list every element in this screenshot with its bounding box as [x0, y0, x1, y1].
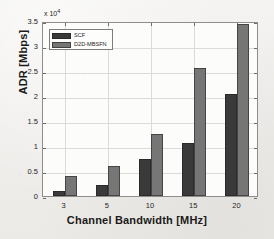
- bar-d2d-mbsfn-10mhz: [151, 134, 163, 196]
- y-tick-label: 0.5: [4, 168, 38, 176]
- y-tick-label: 3: [4, 43, 38, 51]
- bar-d2d-mbsfn-3mhz: [65, 176, 77, 196]
- y-tick-label: 2.5: [4, 68, 38, 76]
- x-axis-title: Channel Bandwidth [MHz]: [0, 214, 274, 226]
- y-tick-label: 3.5: [4, 18, 38, 26]
- legend-swatch-d2d-mbsfn: [52, 42, 71, 48]
- bar-scf-20mhz: [225, 94, 237, 196]
- x-tick-label: 20: [221, 202, 251, 210]
- y-axis-tick-right: [254, 198, 257, 199]
- bar-scf-5mhz: [96, 185, 108, 197]
- x-tick-label: 15: [178, 202, 208, 210]
- legend-label-scf: SCF: [74, 33, 85, 39]
- legend-item-scf: SCF: [52, 32, 110, 40]
- legend-label-d2d-mbsfn: D2D-MBSFN: [74, 42, 107, 48]
- y-tick-label: 1.5: [4, 118, 38, 126]
- figure-canvas: x 104 ADR [Mbps] Channel Bandwidth [MHz]…: [0, 0, 274, 239]
- plot-area: SCF D2D-MBSFN: [42, 22, 258, 197]
- chart-legend: SCF D2D-MBSFN: [49, 29, 113, 50]
- y-tick-label: 0: [4, 193, 38, 201]
- y-axis-multiplier-base: x 10: [44, 10, 57, 17]
- legend-item-d2d-mbsfn: D2D-MBSFN: [52, 41, 110, 49]
- bar-scf-15mhz: [182, 143, 194, 196]
- x-tick-label: 3: [49, 202, 79, 210]
- legend-swatch-scf: [52, 33, 71, 39]
- bar-scf-10mhz: [139, 159, 151, 196]
- y-axis-multiplier: x 104: [44, 9, 60, 17]
- x-tick-label: 5: [92, 202, 122, 210]
- x-tick-label: 10: [135, 202, 165, 210]
- y-tick-label: 1: [4, 143, 38, 151]
- y-axis-tick: [43, 198, 46, 199]
- bar-scf-3mhz: [53, 191, 65, 197]
- y-axis-multiplier-exponent: 4: [57, 8, 60, 14]
- bar-d2d-mbsfn-5mhz: [108, 166, 120, 196]
- y-tick-label: 2: [4, 93, 38, 101]
- bar-d2d-mbsfn-15mhz: [194, 68, 206, 196]
- bar-d2d-mbsfn-20mhz: [237, 24, 249, 196]
